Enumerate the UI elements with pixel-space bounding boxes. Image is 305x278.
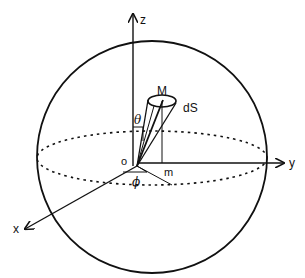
sphere-outline bbox=[37, 41, 267, 273]
theta-label: θ bbox=[134, 113, 142, 127]
equator-dashed bbox=[37, 131, 267, 185]
x-axis-label: x bbox=[13, 222, 19, 236]
projection-m-label: m bbox=[164, 166, 173, 178]
y-axis-label: y bbox=[289, 156, 295, 170]
z-axis-label: z bbox=[140, 13, 146, 27]
surface-element-label: dS bbox=[183, 101, 198, 115]
spherical-coordinates-diagram: z y x o M dS m θ ϕ bbox=[0, 0, 305, 278]
x-axis bbox=[25, 166, 137, 229]
diagram-canvas: z y x o M dS m θ ϕ bbox=[0, 0, 305, 278]
phi-label: ϕ bbox=[132, 175, 140, 189]
point-m-upper-label: M bbox=[157, 84, 167, 98]
origin-label: o bbox=[121, 155, 127, 167]
